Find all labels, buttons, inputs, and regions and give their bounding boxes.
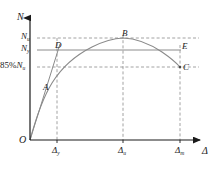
point-label-a: A xyxy=(43,82,49,92)
x-tick-label-delta-y: Δy xyxy=(52,145,60,155)
y-tick-ny-sub: y xyxy=(27,48,29,54)
load-displacement-diagram: N Δ O Nu Ny 85%Nu Δy Δu Δm A B C D E xyxy=(0,0,214,171)
point-label-b: B xyxy=(122,28,128,38)
y-tick-label-ny: Ny xyxy=(21,43,30,53)
point-label-d: D xyxy=(55,40,62,50)
x-tick-du-sub: u xyxy=(123,150,126,156)
x-tick-dm-sub: m xyxy=(180,150,184,156)
y-tick-label-85-percent-nu: 85%Nu xyxy=(0,60,25,70)
y-tick-nu-sub: u xyxy=(27,36,30,42)
x-tick-label-delta-m: Δm xyxy=(175,145,184,155)
point-label-c: C xyxy=(183,62,189,72)
x-tick-dy-sub: y xyxy=(57,150,59,156)
y-axis-label: N xyxy=(17,11,24,22)
x-axis-label: Δ xyxy=(202,145,208,156)
line-initial-stiffness xyxy=(30,44,60,140)
y-tick-label-nu: Nu xyxy=(21,31,30,41)
origin-label: O xyxy=(19,134,26,145)
x-tick-label-delta-u: Δu xyxy=(118,145,126,155)
y-tick-85-sub: u xyxy=(23,65,26,71)
point-marker-c xyxy=(179,66,182,69)
point-label-e: E xyxy=(182,41,188,51)
curve-load-displacement xyxy=(30,38,180,140)
y-tick-85-prefix: 85% xyxy=(0,60,17,70)
y-tick-85-main: N xyxy=(17,60,23,70)
